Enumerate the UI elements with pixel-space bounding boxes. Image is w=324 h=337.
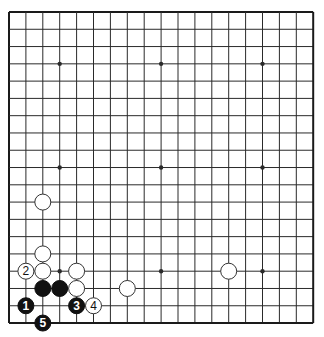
- black-stone: [52, 280, 68, 296]
- black-stone-1: 1: [18, 298, 34, 314]
- star-point: [159, 269, 163, 273]
- go-board-diagram: 21345: [0, 0, 324, 337]
- go-board: 21345: [0, 0, 324, 337]
- white-stone: [69, 263, 85, 279]
- white-stone: [35, 263, 51, 279]
- black-stone: [35, 280, 51, 296]
- move-number-label: 5: [39, 316, 46, 330]
- white-stone: [35, 194, 51, 210]
- move-number-label: 2: [23, 264, 30, 278]
- white-stone: [119, 280, 135, 296]
- move-number-label: 1: [23, 299, 30, 313]
- white-stone-circle: [221, 263, 237, 279]
- white-stone-circle: [69, 263, 85, 279]
- white-stone-circle: [35, 246, 51, 262]
- white-stone-circle: [35, 194, 51, 210]
- white-stone-circle: [35, 263, 51, 279]
- star-point: [58, 62, 62, 66]
- white-stone: [69, 280, 85, 296]
- star-point: [260, 62, 264, 66]
- black-stone-circle: [52, 280, 68, 296]
- star-point: [58, 269, 62, 273]
- white-stone-2: 2: [18, 263, 34, 279]
- move-number-label: 3: [73, 299, 80, 313]
- white-stone: [35, 246, 51, 262]
- black-stone-3: 3: [69, 298, 85, 314]
- star-point: [260, 165, 264, 169]
- white-stone-circle: [119, 280, 135, 296]
- black-stone-5: 5: [35, 315, 51, 331]
- star-point: [260, 269, 264, 273]
- black-stone-circle: [35, 280, 51, 296]
- star-point: [159, 62, 163, 66]
- star-point: [159, 165, 163, 169]
- star-point: [58, 165, 62, 169]
- white-stone: [221, 263, 237, 279]
- white-stone-4: 4: [86, 298, 102, 314]
- white-stone-circle: [69, 280, 85, 296]
- move-number-label: 4: [90, 299, 97, 313]
